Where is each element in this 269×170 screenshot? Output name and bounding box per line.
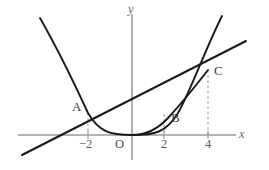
point-label-b: B — [171, 111, 180, 124]
point-label-c: C — [214, 64, 223, 77]
x-axis-label: x — [239, 128, 245, 141]
tick-label-2: 2 — [161, 138, 167, 151]
parabola-curve — [40, 16, 222, 135]
secant-line — [22, 41, 246, 155]
figure-canvas — [0, 0, 269, 170]
point-label-a: A — [72, 100, 81, 113]
origin-label: O — [115, 138, 124, 151]
y-axis-label: y — [128, 3, 134, 16]
tick-label-4: 4 — [205, 138, 211, 151]
tick-label-minus2: −2 — [79, 138, 92, 151]
math-figure: x y O −2 2 4 A B C — [0, 0, 269, 170]
